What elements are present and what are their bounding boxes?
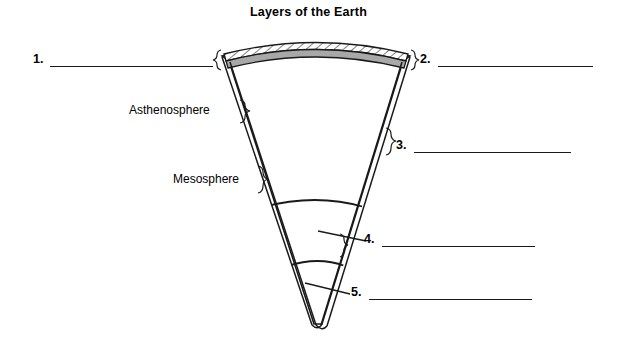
blank-5-number: 5.: [351, 285, 361, 299]
label-mesosphere: Mesosphere: [173, 172, 239, 186]
blank-3-number: 3.: [396, 138, 406, 152]
blank-1-line[interactable]: [50, 66, 213, 67]
blank-2-number: 2.: [420, 52, 430, 66]
blank-5-line[interactable]: [369, 299, 532, 300]
mantle-wedge-body: [229, 50, 403, 324]
blank-4-number: 4.: [364, 232, 374, 246]
crust-brace-right: [411, 50, 419, 70]
diagram-canvas: [0, 0, 617, 341]
blank-3-line[interactable]: [414, 152, 571, 153]
earth-layers-diagram: Layers of the Earth: [0, 0, 617, 341]
label-asthenosphere: Asthenosphere: [129, 103, 210, 117]
blank-4-line[interactable]: [382, 246, 535, 247]
crust-brace-left: [213, 50, 221, 70]
blank-2-line[interactable]: [438, 66, 593, 67]
blank-1-number: 1.: [33, 52, 43, 66]
